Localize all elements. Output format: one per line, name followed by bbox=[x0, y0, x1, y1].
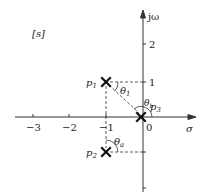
s-plane-diagram: −3 −2 −1 0 2 1 jω σ [s] p1 p2 p3 θ1 θb θ… bbox=[0, 0, 204, 196]
theta1-arc bbox=[115, 82, 118, 91]
pole-p2-icon bbox=[102, 148, 110, 156]
y-tick-label-1: 1 bbox=[149, 77, 155, 88]
x-tick-label-0: 0 bbox=[146, 122, 152, 133]
pole-p1-icon bbox=[102, 78, 110, 86]
angle-label-theta1: θ1 bbox=[120, 85, 131, 98]
x-tick-label-neg2: −2 bbox=[62, 122, 77, 133]
pole-label-p1: p1 bbox=[86, 77, 97, 90]
plane-label: [s] bbox=[32, 28, 45, 39]
x-tick-label-neg3: −3 bbox=[26, 122, 41, 133]
pole-label-p2: p2 bbox=[86, 147, 97, 160]
imag-axis-label: jω bbox=[147, 11, 159, 22]
real-axis-arrow-icon bbox=[188, 115, 196, 120]
angle-label-thetab: θb bbox=[144, 98, 153, 109]
imag-axis-arrow-icon bbox=[141, 10, 146, 18]
real-axis-label: σ bbox=[186, 123, 194, 134]
angle-label-thetaa: θa bbox=[114, 136, 124, 149]
y-tick-label-2: 2 bbox=[149, 39, 155, 50]
